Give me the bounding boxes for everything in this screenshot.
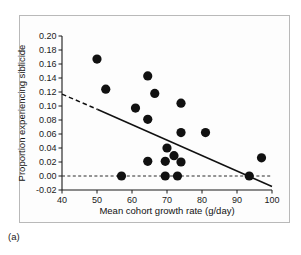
data-point	[131, 104, 140, 113]
data-point	[117, 171, 126, 180]
data-point	[143, 71, 152, 80]
data-point	[169, 151, 178, 160]
data-point	[162, 143, 171, 152]
x-tick-label: 100	[264, 195, 279, 205]
scatter-point-group	[92, 55, 266, 181]
data-point	[257, 153, 266, 162]
y-tick-label: 0.04	[39, 143, 57, 153]
y-tick-label: 0.18	[39, 45, 57, 55]
data-point	[176, 128, 185, 137]
y-tick-label: 0.08	[39, 115, 57, 125]
data-point	[101, 85, 110, 94]
y-tick-label: 0.12	[39, 87, 57, 97]
data-point	[161, 157, 170, 166]
x-tick-label: 70	[162, 195, 172, 205]
y-tick-label: 0.14	[39, 73, 57, 83]
data-point	[176, 99, 185, 108]
y-tick-label: 0.16	[39, 59, 57, 69]
data-point	[161, 171, 170, 180]
y-tick-label: -0.02	[36, 185, 57, 195]
y-tick-label: 0.10	[39, 101, 57, 111]
figure-caption: (a)	[8, 231, 20, 242]
x-tick-label: 40	[57, 195, 67, 205]
x-axis-tick-labels: 405060708090100	[57, 195, 280, 205]
scatter-chart: -0.020.000.020.040.060.080.100.120.140.1…	[0, 0, 301, 255]
data-point	[92, 55, 101, 64]
data-point	[143, 115, 152, 124]
data-point	[150, 89, 159, 98]
y-tick-label: 0.00	[39, 171, 57, 181]
data-point	[201, 128, 210, 137]
y-tick-label: 0.20	[39, 31, 57, 41]
x-tick-label: 80	[197, 195, 207, 205]
data-point	[176, 157, 185, 166]
x-tick-label: 50	[92, 195, 102, 205]
x-tick-label: 90	[232, 195, 242, 205]
data-point	[143, 157, 152, 166]
y-axis-group: -0.020.000.020.040.060.080.100.120.140.1…	[16, 31, 62, 195]
data-point	[245, 171, 254, 180]
x-tick-label: 60	[127, 195, 137, 205]
y-axis-tick-labels: -0.020.000.020.040.060.080.100.120.140.1…	[36, 31, 57, 195]
regression-line-dashed-segment	[62, 94, 98, 109]
x-axis-title: Mean cohort growth rate (g/day)	[99, 205, 234, 216]
y-tick-label: 0.06	[39, 129, 57, 139]
figure-container: -0.020.000.020.040.060.080.100.120.140.1…	[0, 0, 301, 255]
y-axis-title: Proportion experiencing siblicide	[16, 45, 27, 182]
x-axis-group: 405060708090100 Mean cohort growth rate …	[57, 190, 280, 216]
y-tick-label: 0.02	[39, 157, 57, 167]
data-point	[173, 171, 182, 180]
